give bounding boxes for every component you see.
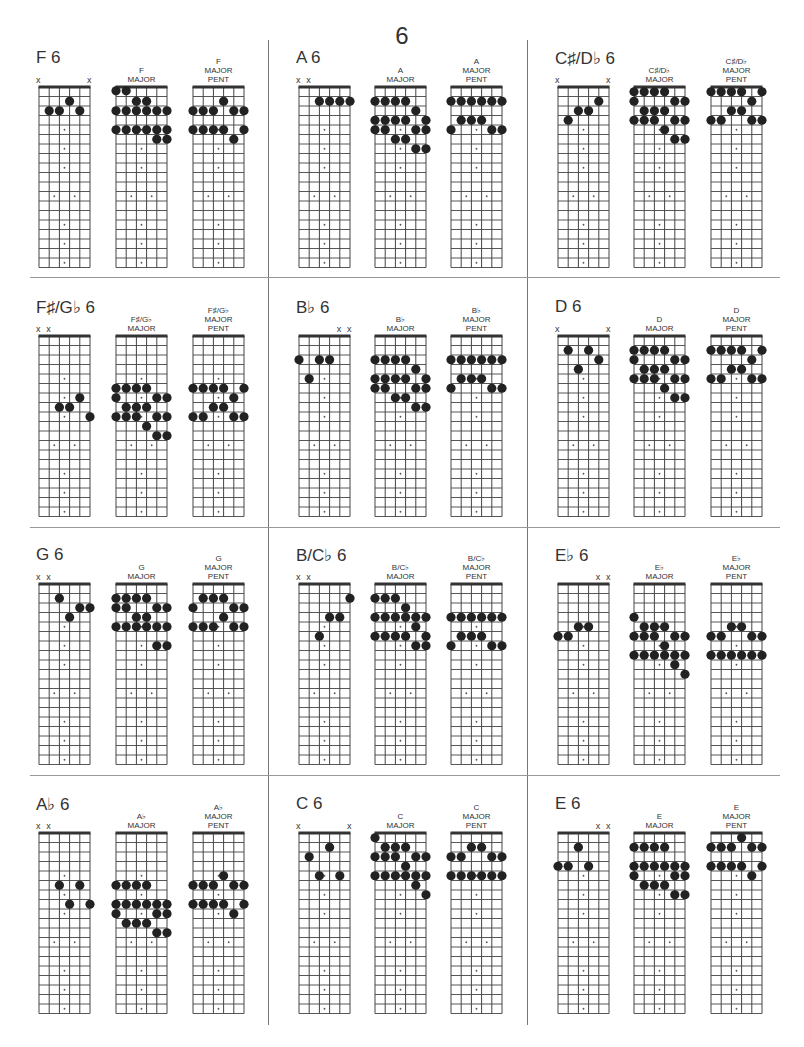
finger-dot [717, 862, 726, 871]
finger-dot [391, 594, 400, 603]
finger-dot [737, 106, 746, 115]
finger-dot [381, 384, 390, 393]
finger-dot [706, 843, 715, 852]
finger-dot [401, 393, 410, 402]
finger-dot [421, 125, 430, 134]
finger-dot [446, 125, 455, 134]
finger-dot [294, 355, 303, 364]
inlay-marker [64, 1008, 66, 1010]
inlay-marker [141, 664, 143, 666]
finger-dot [650, 881, 659, 890]
inlay-marker [465, 941, 467, 943]
finger-dot [370, 632, 379, 641]
finger-dot [640, 622, 649, 631]
inlay-marker [583, 224, 585, 226]
major-pent-label: B♭ MAJOR PENT [437, 306, 517, 333]
inlay-marker [218, 243, 220, 245]
nut [193, 583, 245, 586]
finger-dot [650, 116, 659, 125]
inlay-marker [476, 473, 478, 475]
inlay-marker [583, 664, 585, 666]
inlay-marker [64, 645, 66, 647]
inlay-marker [486, 195, 488, 197]
finger-dot [574, 843, 583, 852]
major-scale-fretboard [369, 330, 432, 525]
nut [116, 335, 168, 338]
finger-dot [188, 622, 197, 631]
inlay-marker [313, 444, 315, 446]
finger-dot [650, 374, 659, 383]
finger-dot [650, 622, 659, 631]
finger-dot [55, 594, 64, 603]
finger-dot [142, 613, 151, 622]
inlay-marker [736, 664, 738, 666]
finger-dot [132, 403, 141, 412]
finger-dot [457, 374, 466, 383]
finger-dot [477, 116, 486, 125]
chord-title: F 6 [36, 48, 61, 68]
finger-dot [152, 106, 161, 115]
finger-dot [370, 116, 379, 125]
nut [299, 832, 351, 835]
finger-dot [629, 613, 638, 622]
finger-dot [650, 843, 659, 852]
inlay-marker [476, 262, 478, 264]
finger-dot [152, 909, 161, 918]
inlay-marker [583, 970, 585, 972]
finger-dot [594, 355, 603, 364]
inlay-marker [659, 913, 661, 915]
major-scale-fretboard [110, 330, 173, 525]
inlay-marker [400, 224, 402, 226]
finger-dot [446, 384, 455, 393]
finger-dot [650, 651, 659, 660]
inlay-marker [659, 243, 661, 245]
finger-dot [467, 613, 476, 622]
inlay-marker [465, 195, 467, 197]
muted-string-x-icon: x [296, 822, 301, 831]
finger-dot [162, 431, 171, 440]
inlay-marker [64, 875, 66, 877]
finger-dot [477, 355, 486, 364]
inlay-marker [141, 492, 143, 494]
inlay-marker [659, 1008, 661, 1010]
major-pent-fretboard [445, 827, 508, 1022]
inlay-marker [410, 444, 412, 446]
finger-dot [680, 632, 689, 641]
inlay-marker [218, 167, 220, 169]
inlay-marker [736, 740, 738, 742]
nut [711, 583, 763, 586]
finger-dot [487, 871, 496, 880]
chord-fretboard [293, 330, 356, 525]
finger-dot [497, 871, 506, 880]
inlay-marker [218, 989, 220, 991]
finger-dot [411, 871, 420, 880]
muted-string-x-icon: x [606, 76, 611, 85]
finger-dot [122, 106, 131, 115]
finger-dot [584, 106, 593, 115]
inlay-marker [725, 195, 727, 197]
finger-dot [411, 881, 420, 890]
finger-dot [111, 622, 120, 631]
chord-title: A 6 [296, 48, 321, 68]
finger-dot [457, 116, 466, 125]
major-scale-fretboard [110, 578, 173, 773]
finger-dot [660, 622, 669, 631]
finger-dot [122, 594, 131, 603]
finger-dot [142, 125, 151, 134]
major-pent-label: E♭ MAJOR PENT [697, 554, 777, 581]
muted-string-x-icon: x [606, 822, 611, 831]
inlay-marker [324, 397, 326, 399]
row-divider [30, 277, 780, 278]
inlay-marker [659, 664, 661, 666]
inlay-marker [476, 243, 478, 245]
finger-dot [680, 116, 689, 125]
inlay-marker [218, 148, 220, 150]
inlay-marker [64, 759, 66, 761]
inlay-marker [400, 243, 402, 245]
inlay-marker [410, 941, 412, 943]
inlay-marker [486, 444, 488, 446]
finger-dot [747, 871, 756, 880]
finger-dot [670, 651, 679, 660]
finger-dot [487, 97, 496, 106]
inlay-marker [324, 148, 326, 150]
